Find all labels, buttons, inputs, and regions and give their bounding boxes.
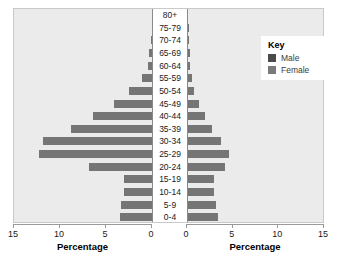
axis-tick bbox=[105, 224, 106, 228]
bar-female bbox=[188, 49, 190, 57]
axis-tick-label: 5 bbox=[229, 229, 234, 239]
male-bars-panel bbox=[14, 9, 152, 222]
bar-row-female bbox=[188, 161, 325, 174]
x-axis-title-male: Percentage bbox=[13, 241, 152, 252]
legend-item-female: Female bbox=[268, 65, 331, 75]
bar-row-male bbox=[14, 110, 152, 123]
bar-male bbox=[124, 188, 152, 196]
axis-tick-label: 0 bbox=[183, 229, 188, 239]
axis-tick-label: 15 bbox=[8, 229, 18, 239]
bar-row-male bbox=[14, 161, 152, 174]
axis-tick bbox=[277, 224, 278, 228]
bar-row-male bbox=[14, 22, 152, 35]
legend-label-male: Male bbox=[281, 53, 299, 63]
age-group-label: 65-69 bbox=[152, 47, 188, 60]
bar-female bbox=[188, 188, 214, 196]
legend-item-male: Male bbox=[268, 53, 331, 63]
bar-row-male bbox=[14, 148, 152, 161]
age-group-label: 80+ bbox=[152, 9, 188, 22]
bar-male bbox=[71, 125, 152, 133]
bar-row-male bbox=[14, 9, 152, 22]
bar-female bbox=[188, 87, 194, 95]
bar-row-female bbox=[188, 199, 325, 212]
bar-male bbox=[120, 213, 152, 221]
bar-male bbox=[121, 201, 152, 209]
bar-row-female bbox=[188, 98, 325, 111]
age-group-label: 55-59 bbox=[152, 72, 188, 85]
bar-row-female bbox=[188, 173, 325, 186]
bar-row-female bbox=[188, 211, 325, 224]
bar-row-male bbox=[14, 211, 152, 224]
bar-male bbox=[124, 175, 152, 183]
axis-tick bbox=[232, 224, 233, 228]
legend-swatch-female-icon bbox=[268, 66, 276, 74]
bar-row-female bbox=[188, 22, 325, 35]
bar-female bbox=[188, 163, 225, 171]
legend: Key Male Female bbox=[261, 36, 337, 80]
age-group-label: 30-34 bbox=[152, 135, 188, 148]
x-axis-male: 151050 bbox=[13, 224, 152, 225]
bar-female bbox=[188, 36, 189, 44]
bar-row-female bbox=[188, 148, 325, 161]
bar-row-male bbox=[14, 85, 152, 98]
axis-tick bbox=[323, 224, 324, 228]
bar-female bbox=[188, 175, 214, 183]
bar-female bbox=[188, 213, 218, 221]
bar-row-female bbox=[188, 85, 325, 98]
bar-row-male bbox=[14, 199, 152, 212]
bar-female bbox=[188, 100, 199, 108]
bar-female bbox=[188, 125, 212, 133]
population-pyramid-chart: 80+75-7970-7465-6960-6455-5950-5445-4940… bbox=[0, 0, 337, 262]
age-group-label-band: 80+75-7970-7465-6960-6455-5950-5445-4940… bbox=[152, 9, 188, 222]
bar-male bbox=[93, 112, 152, 120]
bar-row-female bbox=[188, 186, 325, 199]
axis-tick bbox=[13, 224, 14, 228]
bar-row-male bbox=[14, 98, 152, 111]
bar-male bbox=[89, 163, 152, 171]
age-group-label: 60-64 bbox=[152, 60, 188, 73]
age-group-label: 15-19 bbox=[152, 173, 188, 186]
bar-male bbox=[43, 137, 152, 145]
x-axis-title-female: Percentage bbox=[186, 241, 324, 252]
bar-row-male bbox=[14, 72, 152, 85]
age-group-label: 50-54 bbox=[152, 85, 188, 98]
bar-male bbox=[142, 74, 152, 82]
plot-area: 80+75-7970-7465-6960-6455-5950-5445-4940… bbox=[13, 8, 324, 223]
age-group-label: 75-79 bbox=[152, 22, 188, 35]
bar-row-male bbox=[14, 34, 152, 47]
bar-female bbox=[188, 62, 190, 70]
bar-female bbox=[188, 201, 216, 209]
age-group-label: 70-74 bbox=[152, 34, 188, 47]
age-group-label: 35-39 bbox=[152, 123, 188, 136]
bar-row-female bbox=[188, 110, 325, 123]
age-group-label: 45-49 bbox=[152, 98, 188, 111]
bar-row-male bbox=[14, 123, 152, 136]
bar-male bbox=[39, 150, 152, 158]
bar-male bbox=[129, 87, 152, 95]
bar-male bbox=[114, 100, 152, 108]
bar-row-female bbox=[188, 135, 325, 148]
axis-tick bbox=[59, 224, 60, 228]
axis-tick-label: 0 bbox=[148, 229, 153, 239]
bar-female bbox=[188, 137, 221, 145]
legend-title: Key bbox=[268, 40, 331, 50]
bar-row-male bbox=[14, 186, 152, 199]
age-group-label: 25-29 bbox=[152, 148, 188, 161]
age-group-label: 10-14 bbox=[152, 186, 188, 199]
legend-label-female: Female bbox=[281, 65, 309, 75]
bar-row-male bbox=[14, 60, 152, 73]
axis-tick-label: 5 bbox=[102, 229, 107, 239]
axis-tick-label: 15 bbox=[318, 229, 328, 239]
age-group-label: 40-44 bbox=[152, 110, 188, 123]
bar-row-male bbox=[14, 135, 152, 148]
axis-tick-label: 10 bbox=[54, 229, 64, 239]
bar-female bbox=[188, 112, 205, 120]
age-group-label: 0-4 bbox=[152, 211, 188, 224]
bar-female bbox=[188, 150, 229, 158]
axis-tick-label: 10 bbox=[272, 229, 282, 239]
bar-row-female bbox=[188, 9, 325, 22]
axis-tick bbox=[186, 224, 187, 228]
bar-row-male bbox=[14, 173, 152, 186]
bar-female bbox=[188, 74, 192, 82]
axis-tick bbox=[151, 224, 152, 228]
